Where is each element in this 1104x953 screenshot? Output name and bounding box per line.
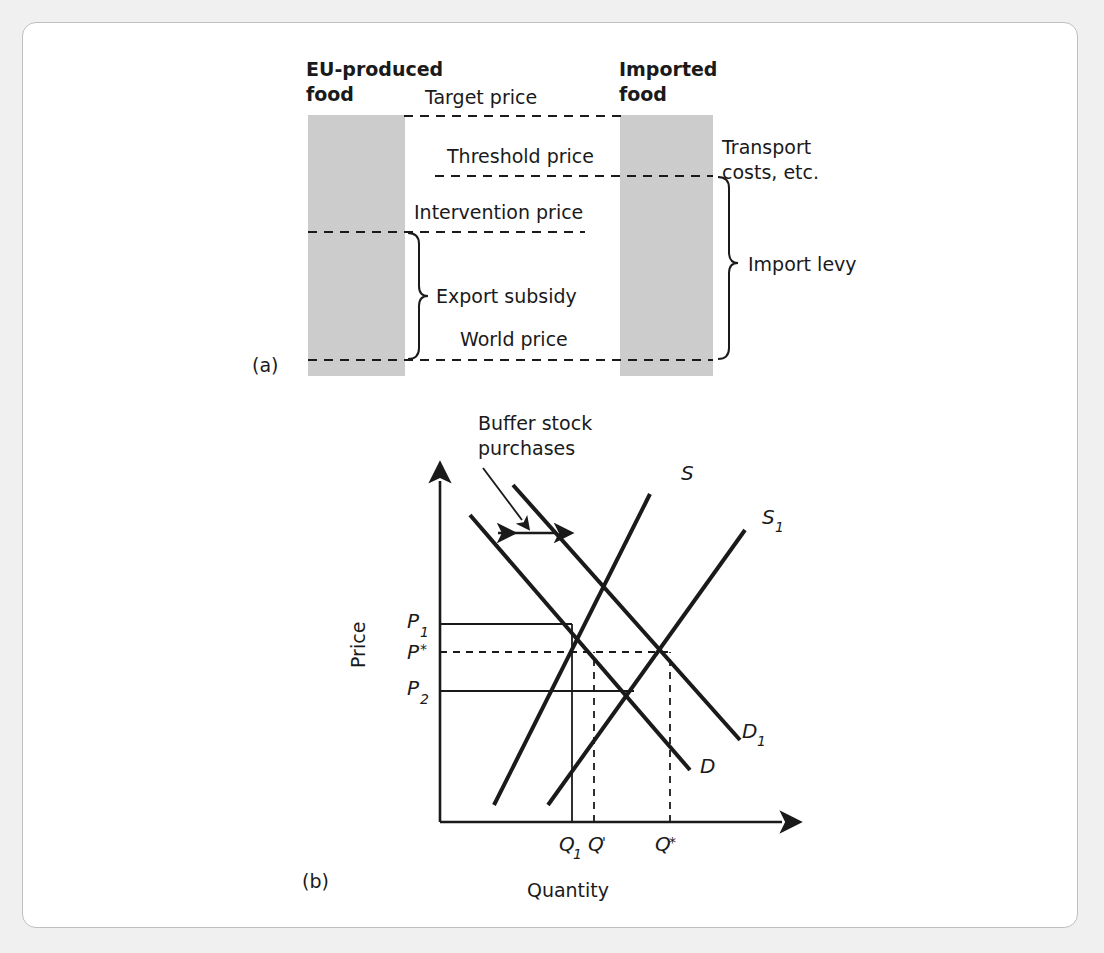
supply-curve-s1 (548, 530, 745, 805)
transport-costs-label-line2: costs, etc. (722, 161, 819, 183)
supply-curve-s1-label-sub: 1 (775, 519, 784, 535)
buffer-stock-purchases-label-line1: Buffer stock (478, 412, 592, 434)
price-pstar-tick-sub: * (420, 641, 427, 657)
demand-curve-d (470, 515, 690, 770)
supply-curve-s1-label: S (762, 505, 775, 529)
supply-curve-s-label: S (681, 461, 694, 485)
imported-food-title-line1: Imported (619, 58, 717, 80)
transport-costs-label-line1: Transport (721, 136, 811, 158)
price-pstar-tick-label: P (407, 640, 420, 664)
panel-b-label: (b) (302, 870, 329, 892)
price-p2-tick-sub: 2 (420, 691, 429, 707)
panel-a-label: (a) (252, 354, 278, 376)
figure-background: EU-produced food Imported food Target pr… (0, 0, 1104, 953)
threshold-price-label: Threshold price (446, 145, 594, 167)
demand-curve-d-label: D (700, 754, 715, 778)
price-p1-tick-sub: 1 (420, 624, 429, 640)
price-p2-tick-label: P (407, 676, 420, 700)
demand-curve-d1-label: D (742, 719, 757, 743)
eu-produced-food-title-line2: food (306, 83, 354, 105)
quantity-qprime-tick-sub: ' (602, 834, 606, 850)
eu-produced-food-bar (308, 115, 405, 376)
price-axis-label: Price (347, 622, 369, 668)
intervention-price-label: Intervention price (414, 201, 583, 223)
import-levy-brace (718, 177, 738, 359)
eu-produced-food-title-line1: EU-produced (306, 58, 443, 80)
target-price-label: Target price (424, 86, 537, 108)
figure-canvas: EU-produced food Imported food Target pr… (0, 0, 1104, 953)
export-subsidy-brace (408, 233, 428, 359)
buffer-stock-purchases-label-line2: purchases (478, 437, 575, 459)
quantity-axis-label: Quantity (527, 879, 609, 901)
quantity-qstar-tick-sub: * (669, 834, 676, 850)
world-price-label: World price (460, 328, 568, 350)
imported-food-title-line2: food (619, 83, 667, 105)
imported-food-bar (620, 115, 713, 376)
export-subsidy-label: Export subsidy (436, 285, 577, 307)
quantity-q1-tick-sub: 1 (573, 846, 582, 862)
price-p1-tick-label: P (407, 609, 420, 633)
demand-curve-d1-label-sub: 1 (757, 733, 766, 749)
buffer-stock-pointer-arrow (483, 468, 522, 520)
import-levy-label: Import levy (748, 253, 857, 275)
